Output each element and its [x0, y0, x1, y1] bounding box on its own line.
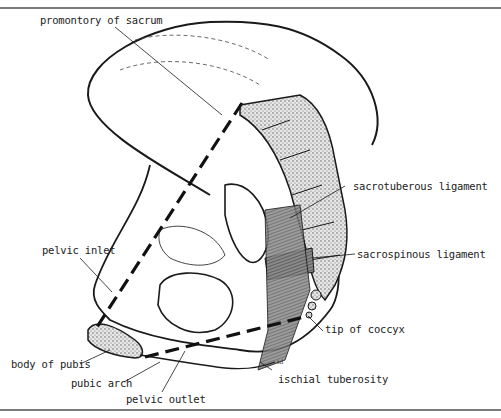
label-pelvic-outlet: pelvic outlet: [126, 393, 206, 405]
label-ischial-tuberosity: ischial tuberosity: [278, 373, 388, 385]
artist-signature: td: [277, 358, 283, 365]
label-body-of-pubis: body of pubis: [11, 358, 91, 370]
label-tip-of-coccyx: tip of coccyx: [325, 323, 405, 335]
pelvis-illustration: [0, 0, 501, 418]
pubic-arch-shape: [140, 355, 275, 369]
body-of-pubis-shape: [88, 324, 143, 358]
sacrotuberous-ligament-shape: [258, 205, 310, 370]
acetabulum: [159, 226, 225, 265]
obturator-foramen: [158, 273, 233, 332]
label-pelvic-inlet: pelvic inlet: [42, 244, 115, 256]
greater-sciatic-notch: [225, 184, 268, 262]
label-sacrotuberous-ligament: sacrotuberous ligament: [353, 180, 488, 192]
label-pubic-arch: pubic arch: [71, 377, 132, 389]
label-promontory-of-sacrum: promontory of sacrum: [40, 14, 162, 26]
label-sacrospinous-ligament: sacrospinous ligament: [357, 248, 486, 260]
